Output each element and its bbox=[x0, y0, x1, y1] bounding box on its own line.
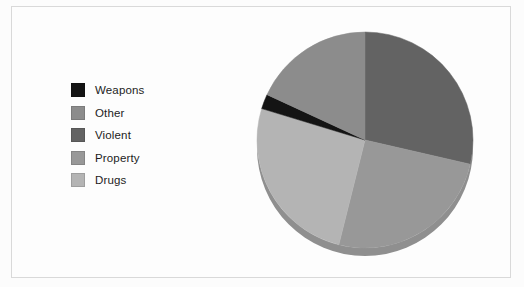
legend-item-violent: Violent bbox=[71, 124, 206, 147]
legend-item-other: Other bbox=[71, 102, 206, 125]
legend-item-weapons: Weapons bbox=[71, 79, 206, 102]
legend-label-other: Other bbox=[95, 107, 125, 119]
legend-swatch-other bbox=[71, 106, 85, 120]
legend-label-weapons: Weapons bbox=[95, 84, 144, 96]
legend-label-drugs: Drugs bbox=[95, 174, 126, 186]
legend-item-property: Property bbox=[71, 147, 206, 170]
legend-label-property: Property bbox=[95, 152, 140, 164]
legend-swatch-violent bbox=[71, 128, 85, 142]
pie-chart bbox=[240, 18, 490, 268]
chart-figure: Weapons Other Violent Property Drugs bbox=[0, 0, 524, 287]
legend-item-drugs: Drugs bbox=[71, 169, 206, 192]
chart-legend: Weapons Other Violent Property Drugs bbox=[71, 79, 206, 192]
legend-label-violent: Violent bbox=[95, 129, 131, 141]
pie-chart-svg bbox=[240, 18, 490, 268]
legend-swatch-drugs bbox=[71, 173, 85, 187]
legend-swatch-weapons bbox=[71, 83, 85, 97]
pie-slices bbox=[257, 32, 473, 248]
legend-swatch-property bbox=[71, 151, 85, 165]
